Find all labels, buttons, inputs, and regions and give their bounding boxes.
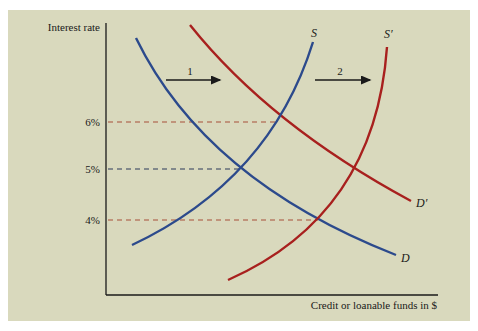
label-S: S [311,26,317,40]
y-axis-label: Interest rate [48,21,100,33]
label-D: D [400,251,410,265]
tick-6: 6% [85,116,100,128]
supply-curve-S-prime [228,47,387,280]
x-axis-label: Credit or loanable funds in $ [311,299,438,311]
shift-arrow-1-label: 1 [187,65,193,77]
supply-curve-S [132,42,313,245]
demand-curve-D-prime [190,25,411,201]
tick-5: 5% [85,163,100,175]
tick-4: 4% [85,214,100,226]
label-S-prime: S′ [384,27,393,41]
shift-arrow-2-label: 2 [337,65,343,77]
label-D-prime: D′ [415,196,428,210]
credit-market-diagram: Interest rate Credit or loanable funds i… [0,0,478,331]
